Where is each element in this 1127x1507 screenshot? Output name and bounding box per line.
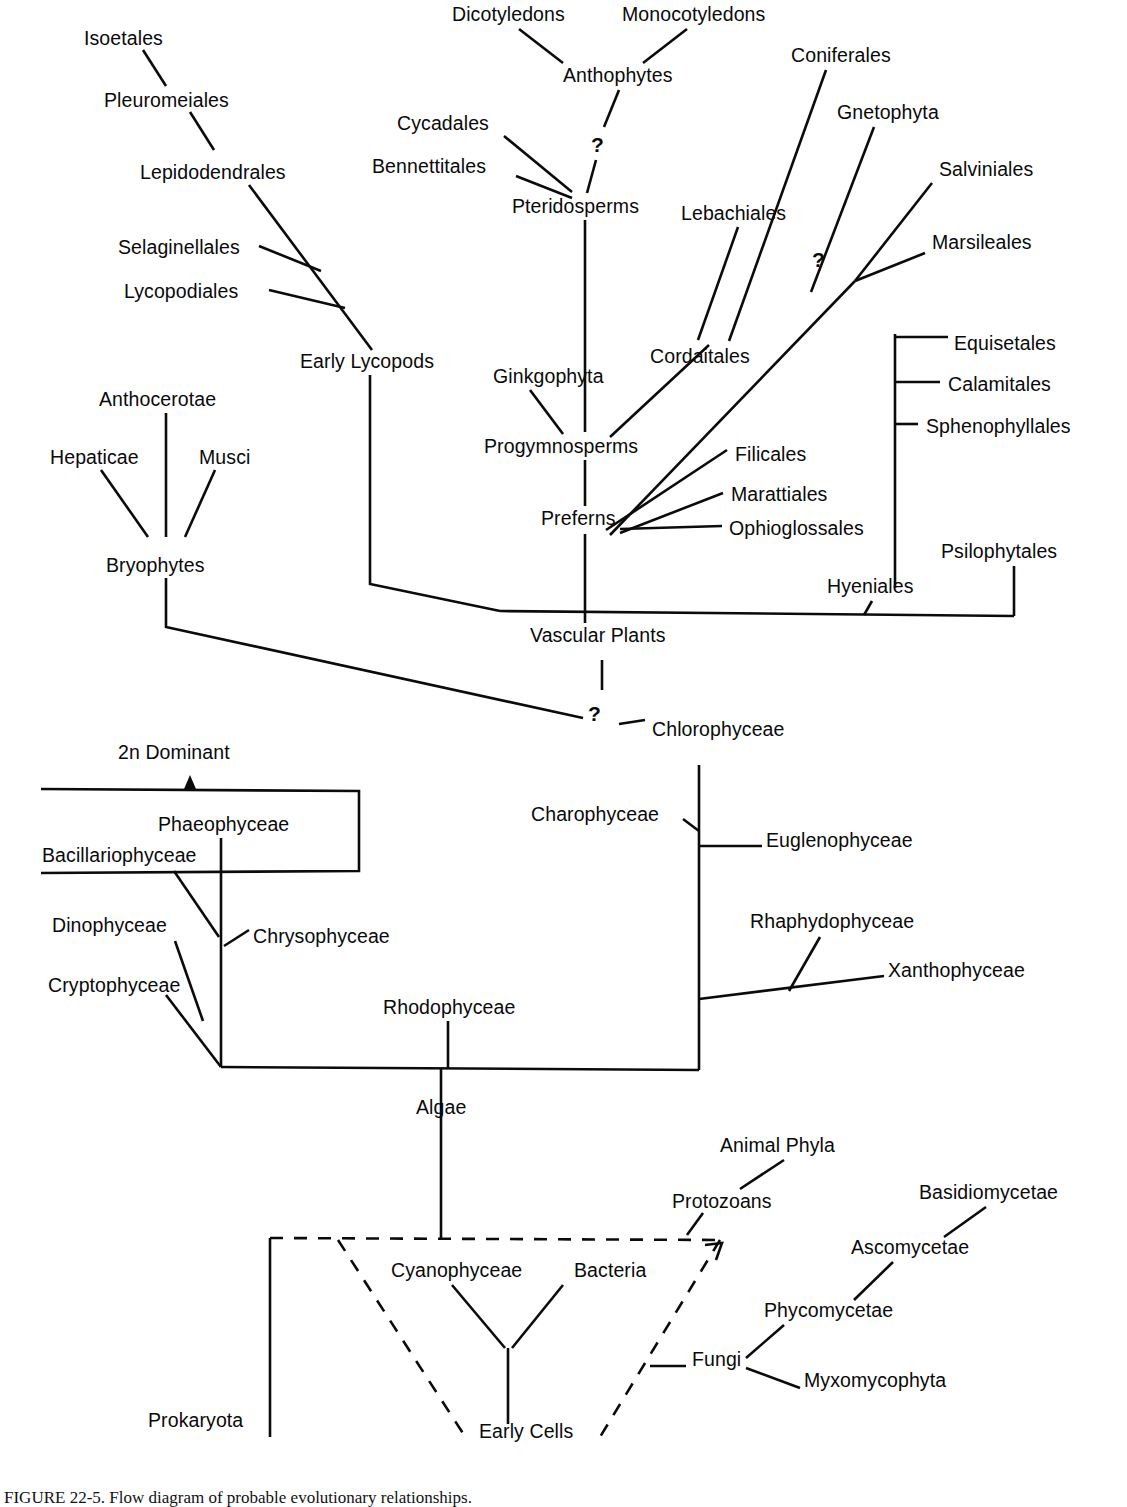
node-fungi[interactable]: Fungi xyxy=(692,1350,741,1370)
edge-algae-baseline xyxy=(221,1067,699,1070)
dashed-envelope-left xyxy=(270,1238,720,1240)
edge-phycomycetae-ascomycetae xyxy=(854,1262,893,1300)
node-coniferales[interactable]: Coniferales xyxy=(791,46,891,66)
edge-hyeniales-baseline xyxy=(864,601,872,615)
node-cycadales[interactable]: Cycadales xyxy=(397,114,489,134)
node-anthophytes[interactable]: Anthophytes xyxy=(563,66,673,86)
edge-cryptophyceae-stem xyxy=(166,995,221,1067)
node-pleuromeiales[interactable]: Pleuromeiales xyxy=(104,91,229,111)
uncertainty-marker-chlorophyceae: ? xyxy=(588,703,601,724)
node-protozoans[interactable]: Protozoans xyxy=(672,1192,772,1212)
edge-anthophytes-q xyxy=(604,90,619,127)
node-cryptophyceae[interactable]: Cryptophyceae xyxy=(48,976,180,996)
edge-q-pteridosperms xyxy=(587,160,596,193)
edge-bacteria-earlycells xyxy=(512,1285,563,1348)
figure-canvas: Isoetales Pleuromeiales Lepidodendrales … xyxy=(0,0,1127,1507)
edge-hepaticae-bryophytes xyxy=(101,470,148,537)
node-basidiomycetae[interactable]: Basidiomycetae xyxy=(919,1183,1058,1203)
node-sphenophyllales[interactable]: Sphenophyllales xyxy=(926,417,1071,437)
node-dinophyceae[interactable]: Dinophyceae xyxy=(52,916,167,936)
node-chlorophyceae[interactable]: Chlorophyceae xyxy=(652,720,784,740)
edge-isoetales-pleuromeiales xyxy=(143,50,166,86)
edge-fungi-phycomycetae xyxy=(746,1325,784,1358)
node-psilophytales[interactable]: Psilophytales xyxy=(941,542,1057,562)
node-lepidodendrales[interactable]: Lepidodendrales xyxy=(140,163,286,183)
node-bacteria[interactable]: Bacteria xyxy=(574,1261,646,1281)
node-cyanophyceae[interactable]: Cyanophyceae xyxy=(391,1261,522,1281)
node-lycopodiales[interactable]: Lycopodiales xyxy=(124,282,238,302)
edge-chrysophyceae-stem xyxy=(224,930,249,946)
node-vascular-plants[interactable]: Vascular Plants xyxy=(530,626,666,646)
node-hepaticae[interactable]: Hepaticae xyxy=(50,448,139,468)
node-musci[interactable]: Musci xyxy=(199,448,250,468)
node-isoetales[interactable]: Isoetales xyxy=(84,29,163,49)
edge-bacillariophyceae-stem xyxy=(174,871,219,937)
uncertainty-marker-cordaitales: ? xyxy=(812,249,825,270)
node-calamitales[interactable]: Calamitales xyxy=(948,375,1051,395)
node-monocotyledons[interactable]: Monocotyledons xyxy=(622,5,765,25)
edge-musci-bryophytes xyxy=(185,470,215,537)
node-hyeniales[interactable]: Hyeniales xyxy=(827,577,914,597)
node-charophyceae[interactable]: Charophyceae xyxy=(531,805,659,825)
node-selaginellales[interactable]: Selaginellales xyxy=(118,238,240,258)
node-early-cells[interactable]: Early Cells xyxy=(479,1422,573,1442)
dashed-envelope-tick xyxy=(705,1243,722,1260)
node-phycomycetae[interactable]: Phycomycetae xyxy=(764,1301,893,1321)
uncertainty-marker-pteridosperms: ? xyxy=(591,134,604,155)
edge-monocotyledons-anthophytes xyxy=(643,29,687,63)
node-ginkgophyta[interactable]: Ginkgophyta xyxy=(493,367,604,387)
edge-vascular-baseline xyxy=(500,611,1014,616)
node-salviniales[interactable]: Salviniales xyxy=(939,160,1033,180)
node-gnetophyta[interactable]: Gnetophyta xyxy=(837,103,939,123)
node-pteridosperms[interactable]: Pteridosperms xyxy=(512,197,639,217)
node-marsileales[interactable]: Marsileales xyxy=(932,233,1032,253)
node-rhaphydophyceae[interactable]: Rhaphydophyceae xyxy=(750,912,914,932)
node-animal-phyla[interactable]: Animal Phyla xyxy=(720,1136,835,1156)
node-anthocerotae[interactable]: Anthocerotae xyxy=(99,390,216,410)
edge-selaginellales-stem xyxy=(259,246,321,271)
node-chrysophyceae[interactable]: Chrysophyceae xyxy=(253,927,390,947)
node-preferns[interactable]: Preferns xyxy=(541,509,616,529)
node-equisetales[interactable]: Equisetales xyxy=(954,334,1056,354)
edge-ascomycetae-basidiomycetae xyxy=(944,1207,986,1237)
edge-lebachiales-cordaitales xyxy=(698,227,738,340)
edge-q-chlorophyceae xyxy=(619,720,645,724)
node-progymnosperms[interactable]: Progymnosperms xyxy=(484,437,638,457)
node-lebachiales[interactable]: Lebachiales xyxy=(681,204,786,224)
edge-cyanophyceae-earlycells xyxy=(452,1285,505,1348)
edge-fungi-myxomycophyta xyxy=(746,1368,800,1388)
node-dicotyledons[interactable]: Dicotyledons xyxy=(452,5,565,25)
node-filicales[interactable]: Filicales xyxy=(735,445,806,465)
node-euglenophyceae[interactable]: Euglenophyceae xyxy=(766,831,913,851)
edge-charophyceae-trunk xyxy=(683,819,699,831)
node-marattiales[interactable]: Marattiales xyxy=(731,485,827,505)
edge-bryophytes-to-root xyxy=(166,578,583,718)
node-ascomycetae[interactable]: Ascomycetae xyxy=(851,1238,969,1258)
edge-lycopods-to-vascular xyxy=(370,581,500,611)
node-bennettitales[interactable]: Bennettitales xyxy=(372,157,486,177)
node-algae[interactable]: Algae xyxy=(416,1098,466,1118)
edge-dicotyledons-anthophytes xyxy=(519,29,563,63)
edge-protozoans-animalphyla xyxy=(740,1160,784,1189)
edge-pleuromeiales-lepidodendrales xyxy=(190,112,214,150)
node-phaeophyceae[interactable]: Phaeophyceae xyxy=(158,815,289,835)
edge-rhaphydophyceae-branch xyxy=(789,937,820,991)
node-early-lycopods[interactable]: Early Lycopods xyxy=(300,352,434,372)
arrowhead-2n-dominant xyxy=(184,775,196,789)
node-cordaitales[interactable]: Cordaitales xyxy=(650,347,750,367)
node-myxomycophyta[interactable]: Myxomycophyta xyxy=(804,1371,946,1391)
node-rhodophyceae[interactable]: Rhodophyceae xyxy=(383,998,515,1018)
node-bacillariophyceae[interactable]: Bacillariophyceae xyxy=(42,846,197,866)
edge-ginkgophyta-progymnosperms xyxy=(530,390,563,434)
edge-preferns-filicales xyxy=(606,450,727,530)
figure-caption: FIGURE 22-5. Flow diagram of probable ev… xyxy=(4,1488,472,1507)
node-xanthophyceae[interactable]: Xanthophyceae xyxy=(888,961,1025,981)
node-bryophytes[interactable]: Bryophytes xyxy=(106,556,205,576)
edge-protozoans-envelope xyxy=(687,1213,703,1235)
node-ophioglossales[interactable]: Ophioglossales xyxy=(729,519,864,539)
node-prokaryota[interactable]: Prokaryota xyxy=(148,1411,243,1431)
node-2n-dominant: 2n Dominant xyxy=(118,743,230,763)
